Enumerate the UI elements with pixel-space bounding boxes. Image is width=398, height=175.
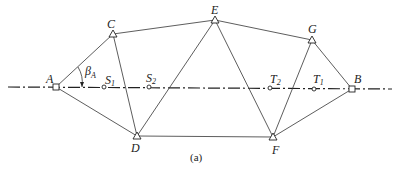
- angle-label-beta: βA: [84, 64, 96, 80]
- tunnel-center-axis: [8, 87, 392, 89]
- figure-caption: (a): [190, 151, 203, 164]
- network-edges: [56, 20, 352, 137]
- edge-e-g: [215, 20, 312, 40]
- label-f: F: [271, 143, 280, 157]
- edge-f-b: [273, 89, 352, 137]
- station-e-triangle-icon: [211, 16, 219, 23]
- label-t1: T1: [313, 72, 324, 87]
- label-a: A: [45, 72, 54, 86]
- label-s2: S2: [146, 71, 156, 86]
- station-b-square-icon: [349, 86, 355, 92]
- edge-d-f: [137, 136, 273, 137]
- station-d-triangle-icon: [133, 132, 141, 139]
- label-g: G: [308, 22, 317, 36]
- label-t2: T2: [270, 72, 281, 87]
- label-c: C: [107, 17, 116, 31]
- label-e: E: [210, 3, 219, 17]
- edge-e-f: [215, 20, 273, 137]
- triangulation-network-diagram: βA A B C D E F G S1 S2 T2 T1 (a): [0, 0, 398, 175]
- angle-arrow-icon: [80, 82, 84, 87]
- label-b: B: [354, 72, 362, 86]
- label-d: D: [130, 141, 140, 155]
- point-t1: [312, 87, 316, 91]
- point-s2: [147, 85, 151, 89]
- edge-c-d: [113, 34, 137, 136]
- station-f-triangle-icon: [269, 133, 277, 140]
- point-t2: [268, 86, 272, 90]
- station-a-square-icon: [53, 84, 59, 90]
- label-s1: S1: [105, 73, 115, 88]
- edge-a-d: [56, 87, 137, 136]
- edge-c-e: [113, 20, 215, 34]
